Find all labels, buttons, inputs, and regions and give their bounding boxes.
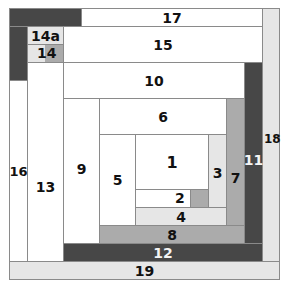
piece-1: 1 [135, 134, 209, 190]
piece-19: 19 [9, 261, 280, 280]
piece-17-dark-section [9, 8, 82, 27]
piece-14a-label: 14a [31, 28, 60, 44]
piece-2-dark-section [190, 189, 209, 208]
piece-10: 10 [63, 62, 245, 99]
piece-9: 9 [63, 98, 100, 244]
piece-4-label: 4 [176, 209, 186, 225]
piece-6: 6 [99, 98, 227, 135]
piece-17: 17 [81, 8, 263, 27]
piece-12: 12 [63, 243, 263, 262]
piece-3: 3 [208, 134, 227, 208]
piece-14-label: 14 [37, 45, 56, 61]
piece-15-label: 15 [153, 37, 172, 53]
piece-16: 16 [9, 80, 28, 262]
piece-17-label: 17 [162, 10, 181, 26]
piece-1-label: 1 [166, 153, 177, 172]
piece-8: 8 [99, 225, 245, 244]
piece-7-label: 7 [231, 170, 241, 186]
piece-18-label: 18 [264, 132, 281, 146]
piece-12-label: 12 [153, 245, 172, 261]
piece-11: 11 [244, 62, 263, 244]
piece-13-label: 13 [36, 179, 55, 195]
piece-19-label: 19 [135, 263, 154, 279]
piece-10-label: 10 [144, 73, 163, 89]
piece-6-label: 6 [158, 109, 168, 125]
piece-15: 15 [63, 26, 263, 63]
piece-16-dark-section [9, 26, 28, 81]
piece-3-label: 3 [213, 165, 223, 181]
piece-7: 7 [226, 98, 245, 244]
piece-8-label: 8 [167, 227, 177, 243]
piece-9-label: 9 [77, 161, 87, 177]
piece-11-label: 11 [244, 152, 263, 168]
piece-4: 4 [135, 207, 227, 226]
piece-14a: 14a [27, 26, 64, 45]
piece-16-label: 16 [9, 164, 27, 179]
piece-5: 5 [99, 134, 136, 226]
piece-2-label: 2 [175, 190, 185, 206]
piece-5-label: 5 [113, 172, 123, 188]
piece-13: 13 [27, 62, 64, 262]
